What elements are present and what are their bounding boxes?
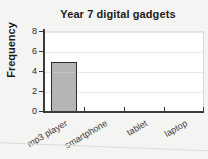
y-tick-label-2: 2 (24, 87, 37, 96)
y-tick-label-8: 8 (24, 27, 37, 36)
chart-title: Year 7 digital gadgets (0, 8, 208, 20)
y-tick-mark-8 (39, 31, 44, 32)
x-tick-mark-2 (124, 107, 125, 113)
y-tick-mark-2 (39, 91, 44, 92)
y-tick-label-0: 0 (24, 107, 37, 116)
x-tick-mark-4 (203, 107, 204, 113)
x-tick-mark-0 (44, 107, 45, 113)
y-tick-mark-6 (39, 51, 44, 52)
plot-area (44, 31, 204, 111)
bar-chart: Year 7 digital gadgets Frequency 0 2 4 6… (0, 0, 208, 159)
y-axis-title: Frequency (5, 18, 17, 82)
x-tick-mark-3 (164, 107, 165, 113)
x-tick-mark-1 (84, 107, 85, 113)
y-tick-label-6: 6 (24, 47, 37, 56)
y-tick-mark-4 (39, 71, 44, 72)
gridline-6 (44, 52, 203, 53)
gridline-8 (44, 32, 203, 33)
y-tick-label-4: 4 (24, 67, 37, 76)
bar-mp3-player (51, 62, 77, 112)
